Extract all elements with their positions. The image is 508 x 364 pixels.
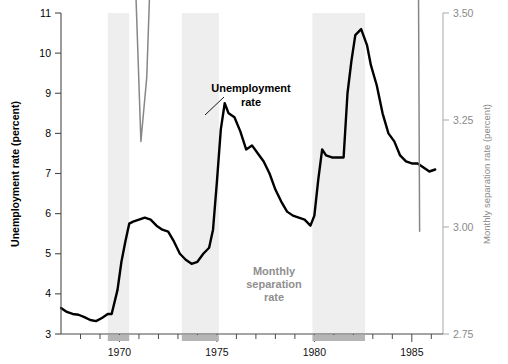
recession-1973-1975 bbox=[182, 13, 219, 334]
x-tick-label: 1980 bbox=[303, 346, 327, 358]
left-tick-label: 9 bbox=[45, 87, 51, 99]
right-tick-label: 2.75 bbox=[453, 328, 474, 340]
dual-axis-line-chart: 34567891011 2.753.003.253.50 19701975198… bbox=[0, 0, 508, 364]
left-tick-label: 8 bbox=[45, 127, 51, 139]
y-axis-title-right: Monthly separation rate (percent) bbox=[481, 104, 492, 244]
left-tick-label: 5 bbox=[45, 247, 51, 259]
axis-recession-mark bbox=[182, 335, 219, 341]
left-tick-label: 6 bbox=[45, 207, 51, 219]
x-tick-label: 1975 bbox=[205, 346, 229, 358]
recession-1980-1982 bbox=[312, 13, 365, 334]
axis-recession-mark bbox=[312, 335, 365, 341]
left-tick-label: 4 bbox=[45, 287, 51, 299]
y-axis-title-left: Unemployment rate (percent) bbox=[9, 101, 21, 247]
chart-figure: 34567891011 2.753.003.253.50 19701975198… bbox=[0, 0, 508, 364]
left-tick-label: 7 bbox=[45, 167, 51, 179]
monthly-separation-rate-label-line3: rate bbox=[264, 291, 284, 303]
left-tick-label: 10 bbox=[39, 47, 51, 59]
chart-background bbox=[0, 0, 508, 364]
left-tick-label: 11 bbox=[40, 7, 51, 19]
right-tick-label: 3.50 bbox=[453, 7, 474, 19]
x-tick-label: 1985 bbox=[400, 346, 424, 358]
unemployment-rate-label-line2: rate bbox=[241, 96, 261, 108]
left-tick-label: 3 bbox=[45, 328, 51, 340]
right-tick-label: 3.00 bbox=[453, 221, 474, 233]
axis-recession-mark bbox=[108, 335, 129, 341]
unemployment-rate-label-line1: Unemployment bbox=[211, 82, 291, 94]
x-tick-label: 1970 bbox=[108, 346, 132, 358]
right-tick-label: 3.25 bbox=[453, 114, 474, 126]
monthly-separation-rate-label-line2: separation bbox=[246, 278, 302, 290]
monthly-separation-rate-label-line1: Monthly bbox=[253, 265, 296, 277]
